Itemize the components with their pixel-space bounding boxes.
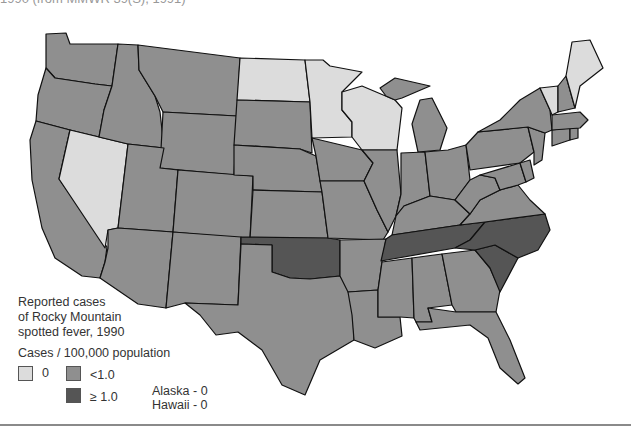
legend-swatch-low [66, 366, 81, 381]
map-title: Reported cases of Rocky Mountain spotted… [18, 295, 124, 340]
alaska-hawaii-note: Alaska - 0 Hawaii - 0 [152, 384, 208, 412]
state-rhode-island [570, 128, 578, 140]
state-mississippi [378, 258, 414, 318]
state-new-mexico [166, 232, 241, 308]
state-new-york [478, 88, 552, 133]
legend-label-low: <1.0 [90, 368, 115, 382]
legend-swatch-zero [18, 366, 33, 381]
legend-title: Cases / 100,000 population [18, 346, 170, 360]
us-choropleth-map [0, 0, 631, 427]
state-kansas [250, 190, 328, 239]
state-colorado [173, 170, 253, 239]
state-north-dakota [237, 58, 310, 102]
state-south-dakota [234, 100, 312, 153]
state-maine [566, 40, 603, 108]
legend-swatch-high [66, 388, 81, 403]
state-massachusetts [552, 112, 588, 130]
legend-label-zero: 0 [42, 366, 49, 380]
state-connecticut [552, 128, 570, 146]
legend-label-high: ≥ 1.0 [90, 390, 118, 404]
state-wyoming [160, 112, 237, 175]
state-florida [416, 308, 525, 384]
bottom-divider [0, 424, 631, 426]
